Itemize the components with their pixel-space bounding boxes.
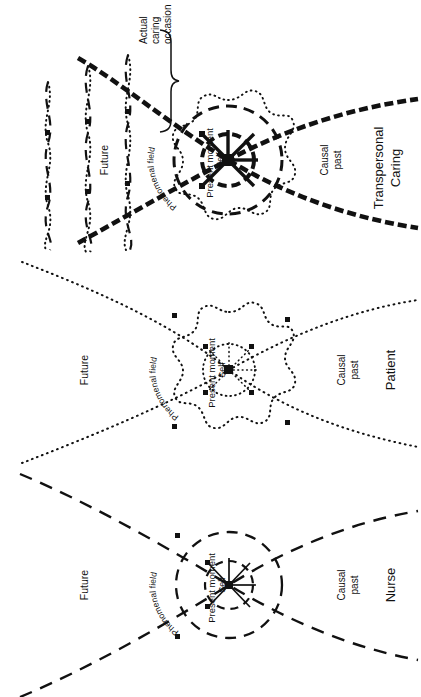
figure-canvas: Present moment Self Phenomenal field Fut… [0, 0, 421, 697]
actual-caring-occasion-line3: occasion [162, 5, 173, 44]
patient-causal-past-label-line1: Causal [336, 354, 347, 385]
transpersonal-panel-title-line1: Transpersonal [371, 127, 386, 210]
patient-self-label: Self [217, 362, 227, 378]
transpersonal-panel-title-line2: Caring [388, 149, 403, 187]
nurse-self-label: Self [217, 577, 227, 593]
transpersonal-future-label: Future [98, 145, 110, 176]
patient-panel-title: Patient [383, 349, 398, 390]
actual-caring-occasion-line2: caring [150, 17, 161, 44]
nurse-future-label: Future [78, 570, 90, 601]
nurse-causal-past-label-line1: Causal [336, 569, 347, 600]
patient-future-label: Future [78, 355, 90, 386]
transpersonal-causal-past-label-line1: Causal [319, 144, 330, 175]
transpersonal-causal-past-label-line2: past [332, 150, 343, 169]
nurse-panel-title: Nurse [383, 568, 398, 603]
transpersonal-self-label: Self [215, 152, 225, 168]
patient-present-moment-label: Present moment [206, 338, 217, 408]
nurse-present-moment-label: Present moment [206, 553, 217, 623]
actual-caring-occasion-line1: Actual [138, 16, 149, 44]
nurse-causal-past-label-line2: past [349, 575, 360, 594]
caring-theory-diagram: Present moment Self Phenomenal field Fut… [0, 0, 421, 697]
transpersonal-present-moment-label: Present moment [204, 128, 215, 198]
patient-causal-past-label-line2: past [349, 360, 360, 379]
